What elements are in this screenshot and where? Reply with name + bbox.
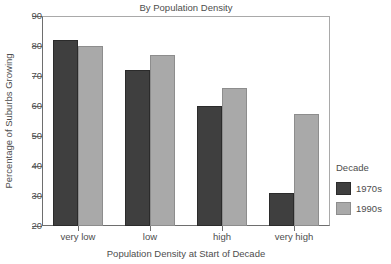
- bar-1990s-very-low: [78, 46, 103, 226]
- y-tick-label: 20: [12, 221, 42, 231]
- y-tick-label: 50: [12, 131, 42, 141]
- y-tick-label: 70: [12, 71, 42, 81]
- bar-1970s-low: [125, 70, 150, 226]
- bar-1990s-high: [222, 88, 247, 226]
- bar-1990s-low: [150, 55, 175, 226]
- y-tick-label: 90: [12, 11, 42, 21]
- legend-item-1990s[interactable]: 1990s: [336, 202, 391, 215]
- legend-swatch-1970s: [336, 182, 351, 195]
- x-axis-title: Population Density at Start of Decade: [42, 248, 330, 259]
- legend-title: Decade: [336, 162, 391, 173]
- y-tick-label: 40: [12, 161, 42, 171]
- y-tick-label: 60: [12, 101, 42, 111]
- chart-legend: Decade 1970s 1990s: [336, 162, 391, 222]
- x-tick-label: very low: [38, 231, 118, 242]
- y-tick-label: 30: [12, 191, 42, 201]
- legend-item-1970s[interactable]: 1970s: [336, 182, 391, 195]
- bar-1970s-very-high: [269, 193, 294, 226]
- legend-label-1970s: 1970s: [356, 183, 382, 194]
- legend-swatch-1990s: [336, 202, 351, 215]
- bar-1970s-high: [197, 106, 222, 226]
- bar-chart: By Population Density Percentage of Subu…: [0, 0, 391, 264]
- x-tick-label: low: [110, 231, 190, 242]
- bar-1990s-very-high: [294, 114, 319, 227]
- chart-title: By Population Density: [42, 2, 330, 13]
- legend-label-1990s: 1990s: [356, 203, 382, 214]
- y-tick-label: 80: [12, 41, 42, 51]
- bar-1970s-very-low: [53, 40, 78, 226]
- x-tick-label: high: [182, 231, 262, 242]
- x-tick-label: very high: [254, 231, 334, 242]
